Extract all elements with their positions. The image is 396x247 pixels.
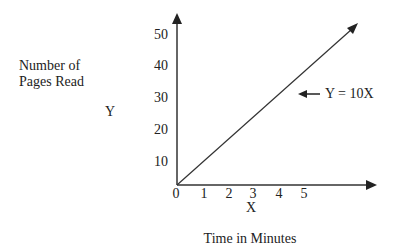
- y-tick-10: 10: [144, 154, 168, 170]
- y-tick-20: 20: [144, 122, 168, 138]
- x-tick-2: 2: [221, 186, 237, 202]
- x-axis-title: Time in Minutes: [200, 231, 300, 247]
- x-tick-5: 5: [296, 186, 312, 202]
- y-axis-title-line2: Pages Read: [19, 74, 84, 90]
- x-axis-arrow-icon: [366, 180, 377, 190]
- x-tick-0: 0: [168, 186, 184, 202]
- y-tick-30: 30: [144, 90, 168, 106]
- y-axis-title-line1: Number of: [19, 58, 84, 74]
- y-axis-arrow-icon: [172, 13, 182, 24]
- data-line: [177, 29, 352, 185]
- y-tick-40: 40: [144, 58, 168, 74]
- y-tick-50: 50: [144, 27, 168, 43]
- annotation-arrow-icon: [298, 90, 307, 98]
- chart-canvas: [0, 0, 396, 247]
- y-axis-title: Number of Pages Read: [19, 58, 84, 90]
- equation-annotation: Y = 10X: [325, 86, 374, 102]
- x-variable-label: X: [246, 200, 256, 216]
- x-tick-1: 1: [196, 186, 212, 202]
- y-variable-label: Y: [105, 104, 115, 120]
- x-tick-4: 4: [271, 186, 287, 202]
